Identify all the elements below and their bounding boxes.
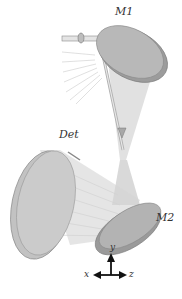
scattered-rays-m1	[62, 52, 102, 104]
axis-label-y: y	[110, 242, 115, 252]
label-m2: M2	[156, 211, 174, 224]
axis-triad	[93, 253, 127, 279]
label-det: Det	[59, 128, 79, 141]
label-m1: M1	[115, 5, 133, 18]
axis-label-x: x	[84, 269, 89, 279]
optical-system-diagram	[0, 0, 182, 299]
axis-label-z: z	[129, 269, 134, 279]
